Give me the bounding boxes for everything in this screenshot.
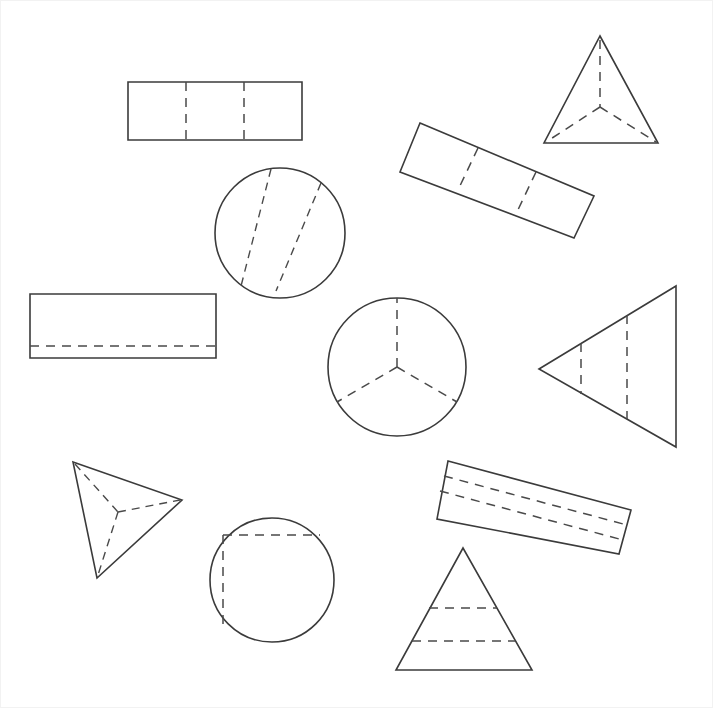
shape-outline (215, 168, 345, 298)
shape-circle-chord-and-vertical-chord[interactable] (210, 518, 334, 642)
shape-outline (210, 518, 334, 642)
shape-upright-triangle-two-horizontal-dashes[interactable] (396, 548, 532, 670)
shape-rectangle-single-horizontal-dash[interactable] (30, 294, 216, 358)
dashed-chord (276, 183, 321, 291)
shape-tetrahedron-rotated[interactable] (73, 462, 182, 578)
dashed-cross-section (516, 172, 536, 214)
shape-outline (400, 123, 594, 238)
dashed-radius (397, 367, 457, 402)
dashed-chord (240, 169, 271, 290)
shape-outline (544, 36, 658, 143)
shapes-canvas (0, 0, 713, 708)
dashed-cross-section (444, 476, 627, 525)
shape-outline (437, 461, 631, 554)
geometry-worksheet-page (0, 0, 713, 708)
shape-tilted-rectangle-two-long-dashes[interactable] (437, 461, 631, 554)
shape-outline (128, 82, 302, 140)
shape-circle-three-radii[interactable] (328, 298, 466, 436)
dashed-radius (337, 367, 397, 402)
shape-tetrahedron-upright[interactable] (544, 36, 658, 143)
shape-tilted-rectangle-two-dashes[interactable] (400, 123, 594, 238)
dashed-cross-section (440, 491, 623, 540)
shape-outline (396, 548, 532, 670)
shape-horizontal-rectangle-two-vertical-dashes[interactable] (128, 82, 302, 140)
shape-outline (30, 294, 216, 358)
page-border (1, 1, 713, 708)
dashed-cross-section (458, 148, 478, 190)
hidden-edge (98, 512, 118, 575)
shape-circle-two-parallel-chords[interactable] (215, 168, 345, 298)
shape-outline (539, 286, 676, 447)
shape-left-pointing-triangle-two-dashes[interactable] (539, 286, 676, 447)
